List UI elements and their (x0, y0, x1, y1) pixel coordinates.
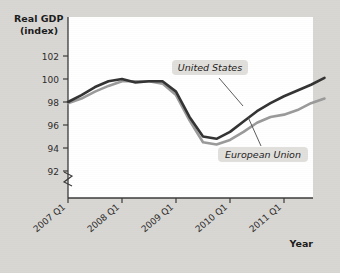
y-axis-tick-label: 96 (48, 121, 60, 131)
chart-figure: Real GDP (index) 92949698100102 2007 Q12… (0, 0, 340, 273)
series-label-united-states-text: United States (178, 62, 242, 73)
series-label-european-union: European Union (218, 147, 308, 162)
y-axis-title-line1: Real GDP (14, 13, 63, 24)
y-axis-tick-label: 100 (42, 75, 59, 85)
y-axis-tick-label: 98 (48, 98, 60, 108)
y-axis-tick-label: 102 (42, 52, 59, 62)
series-label-united-states: United States (172, 60, 248, 75)
y-axis-tick-label: 92 (48, 167, 59, 177)
series-label-european-union-text: European Union (225, 149, 301, 160)
real-gdp-line-chart: Real GDP (index) 92949698100102 2007 Q12… (0, 0, 340, 273)
plot-area-background (68, 17, 313, 198)
y-axis-tick-label: 94 (48, 144, 60, 154)
x-axis-title: Year (288, 238, 313, 249)
y-axis-title-line2: (index) (20, 25, 58, 36)
